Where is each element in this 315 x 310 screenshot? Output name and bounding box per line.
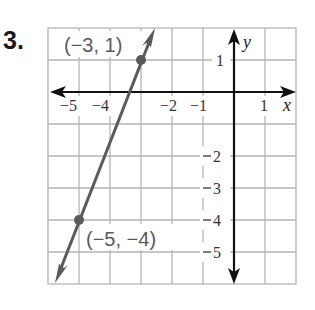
point-label-b: (−5, −4)	[86, 228, 156, 250]
y-axis-label: y	[241, 32, 251, 52]
x-tick-label: −5	[60, 97, 77, 114]
x-tick-label: −1	[190, 97, 207, 114]
x-axis-label: x	[282, 95, 291, 115]
y-tick-label: 2	[213, 148, 221, 165]
point-marker-b	[74, 215, 84, 225]
point-marker-a	[136, 55, 146, 65]
coordinate-plane: −5 −4 −2 −1 1 1 2 3 4 5 y x (−3, 1) (−5,…	[0, 0, 315, 310]
line-top-arrow-icon	[142, 28, 155, 47]
point-label-a: (−3, 1)	[64, 34, 122, 56]
y-tick-label: 4	[213, 212, 221, 229]
y-tick-label: 5	[213, 244, 221, 261]
y-tick-label: 3	[213, 180, 221, 197]
y-tick-label: 1	[216, 52, 224, 69]
x-tick-label: 1	[260, 97, 268, 114]
x-tick-label: −2	[160, 97, 177, 114]
x-tick-label: −4	[92, 97, 109, 114]
line-bottom-arrow-icon	[55, 264, 68, 283]
